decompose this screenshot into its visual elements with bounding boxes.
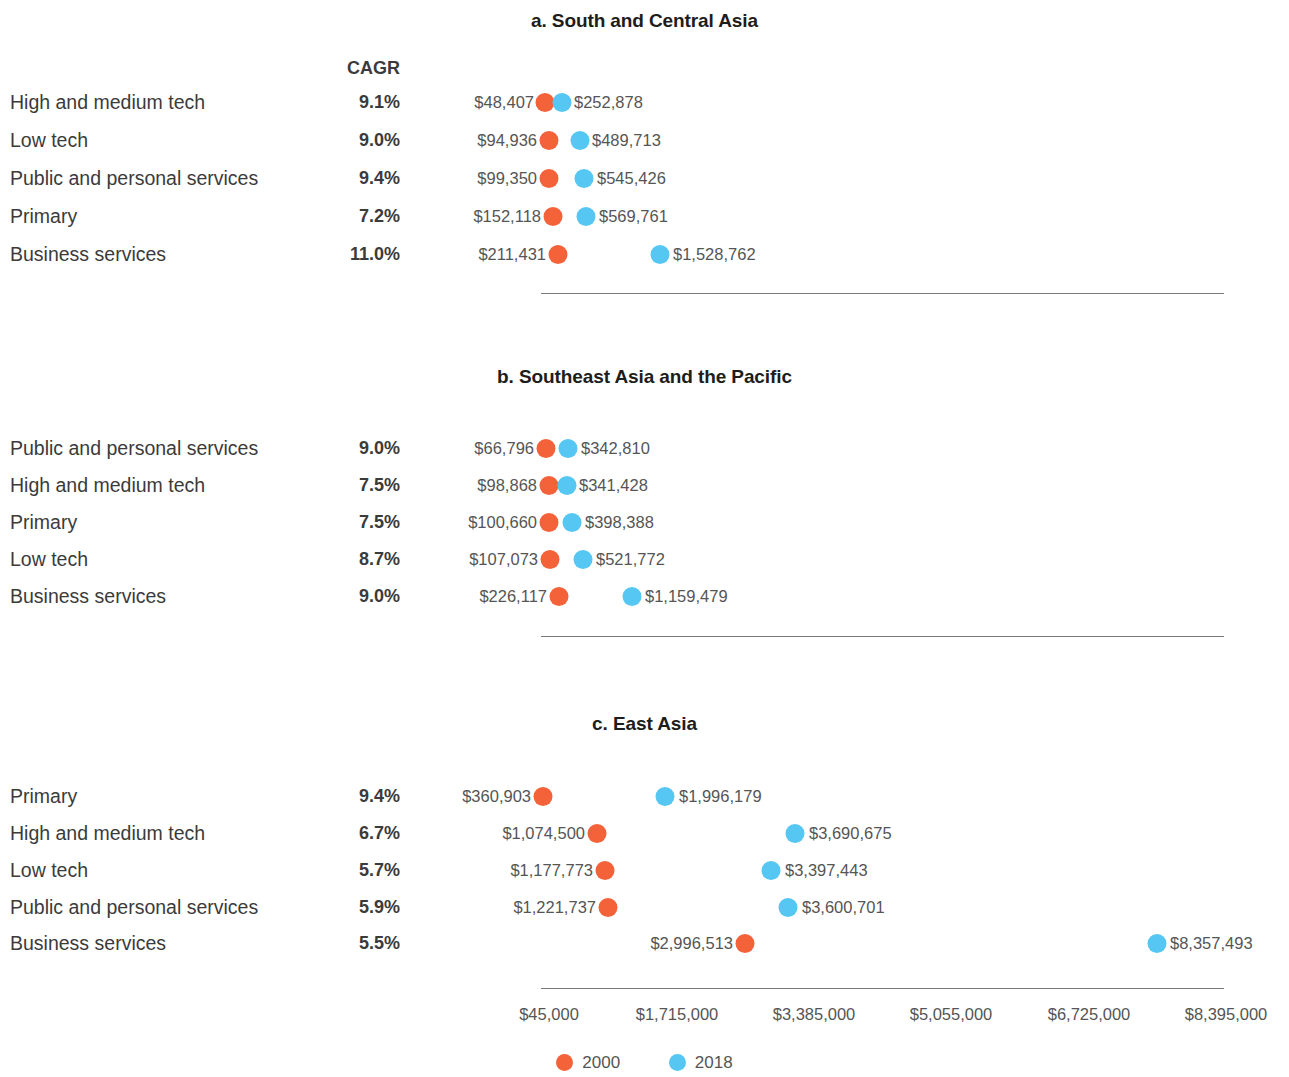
legend-label: 2000 bbox=[582, 1053, 620, 1073]
x-tick-label: $6,725,000 bbox=[1048, 1005, 1131, 1024]
data-point-2018[interactable] bbox=[571, 131, 590, 150]
value-label-2018: $3,397,443 bbox=[785, 857, 868, 883]
table-row: Primary 7.5% $100,660 $398,388 bbox=[0, 509, 1289, 547]
row-plot: $1,074,500 $3,690,675 bbox=[0, 820, 1289, 846]
value-label-2018: $8,357,493 bbox=[1170, 930, 1253, 956]
value-label-2018: $3,600,701 bbox=[802, 894, 885, 920]
legend-label: 2018 bbox=[695, 1053, 733, 1073]
data-point-2018[interactable] bbox=[558, 476, 577, 495]
data-point-2000[interactable] bbox=[537, 439, 556, 458]
value-label-2000: $1,074,500 bbox=[502, 820, 585, 846]
data-point-2000[interactable] bbox=[534, 787, 553, 806]
row-plot: $2,996,513 $8,357,493 bbox=[0, 930, 1289, 956]
value-label-2000: $360,903 bbox=[462, 783, 531, 809]
value-label-2000: $107,073 bbox=[469, 546, 538, 572]
data-point-2018[interactable] bbox=[623, 587, 642, 606]
data-point-2000[interactable] bbox=[540, 513, 559, 532]
table-row: Low tech 9.0% $94,936 $489,713 bbox=[0, 127, 1289, 165]
data-point-2018[interactable] bbox=[553, 93, 572, 112]
table-row: Primary 9.4% $360,903 $1,996,179 bbox=[0, 783, 1289, 821]
row-plot: $211,431 $1,528,762 bbox=[0, 241, 1289, 267]
data-point-2018[interactable] bbox=[779, 898, 798, 917]
data-point-2000[interactable] bbox=[549, 245, 568, 264]
value-label-2018: $1,996,179 bbox=[679, 783, 762, 809]
value-label-2018: $1,528,762 bbox=[673, 241, 756, 267]
table-row: High and medium tech 7.5% $98,868 $341,4… bbox=[0, 472, 1289, 510]
row-plot: $360,903 $1,996,179 bbox=[0, 783, 1289, 809]
data-point-2000[interactable] bbox=[588, 824, 607, 843]
cagr-column-header: CAGR bbox=[280, 58, 400, 79]
data-point-2018[interactable] bbox=[656, 787, 675, 806]
panel-separator-line bbox=[541, 293, 1224, 294]
value-label-2000: $94,936 bbox=[477, 127, 537, 153]
table-row: Business services 11.0% $211,431 $1,528,… bbox=[0, 241, 1289, 279]
row-plot: $152,118 $569,761 bbox=[0, 203, 1289, 229]
x-tick-label: $8,395,000 bbox=[1185, 1005, 1268, 1024]
table-row: Public and personal services 9.0% $66,79… bbox=[0, 435, 1289, 473]
chart-legend: 2000 2018 bbox=[0, 1053, 1289, 1073]
legend-item-2000: 2000 bbox=[556, 1053, 620, 1073]
data-point-2000[interactable] bbox=[599, 898, 618, 917]
value-label-2018: $342,810 bbox=[581, 435, 650, 461]
data-point-2018[interactable] bbox=[563, 513, 582, 532]
x-tick-label: $3,385,000 bbox=[773, 1005, 856, 1024]
row-plot: $1,221,737 $3,600,701 bbox=[0, 894, 1289, 920]
row-plot: $99,350 $545,426 bbox=[0, 165, 1289, 191]
legend-item-2018: 2018 bbox=[669, 1053, 733, 1073]
value-label-2018: $545,426 bbox=[597, 165, 666, 191]
value-label-2000: $1,177,773 bbox=[510, 857, 593, 883]
data-point-2018[interactable] bbox=[762, 861, 781, 880]
panel-title: b. Southeast Asia and the Pacific bbox=[0, 366, 1289, 388]
row-plot: $66,796 $342,810 bbox=[0, 435, 1289, 461]
panel-title: c. East Asia bbox=[0, 713, 1289, 735]
data-point-2000[interactable] bbox=[596, 861, 615, 880]
value-label-2018: $1,159,479 bbox=[645, 583, 728, 609]
row-plot: $1,177,773 $3,397,443 bbox=[0, 857, 1289, 883]
data-point-2000[interactable] bbox=[540, 131, 559, 150]
row-plot: $48,407 $252,878 bbox=[0, 89, 1289, 115]
data-point-2018[interactable] bbox=[1148, 934, 1167, 953]
data-point-2000[interactable] bbox=[541, 550, 560, 569]
data-point-2018[interactable] bbox=[577, 207, 596, 226]
row-plot: $94,936 $489,713 bbox=[0, 127, 1289, 153]
data-point-2000[interactable] bbox=[540, 476, 559, 495]
data-point-2018[interactable] bbox=[559, 439, 578, 458]
value-label-2000: $2,996,513 bbox=[650, 930, 733, 956]
data-point-2018[interactable] bbox=[575, 169, 594, 188]
data-point-2018[interactable] bbox=[786, 824, 805, 843]
data-point-2018[interactable] bbox=[651, 245, 670, 264]
row-plot: $226,117 $1,159,479 bbox=[0, 583, 1289, 609]
chart-page: a. South and Central Asia CAGR High and … bbox=[0, 0, 1289, 1077]
data-point-2000[interactable] bbox=[544, 207, 563, 226]
table-row: Primary 7.2% $152,118 $569,761 bbox=[0, 203, 1289, 241]
x-axis-line bbox=[541, 988, 1224, 989]
value-label-2000: $100,660 bbox=[468, 509, 537, 535]
row-plot: $98,868 $341,428 bbox=[0, 472, 1289, 498]
value-label-2000: $152,118 bbox=[473, 203, 541, 229]
x-tick-label: $5,055,000 bbox=[910, 1005, 993, 1024]
legend-swatch-icon bbox=[669, 1054, 686, 1071]
data-point-2000[interactable] bbox=[540, 169, 559, 188]
value-label-2018: $569,761 bbox=[599, 203, 668, 229]
value-label-2018: $521,772 bbox=[596, 546, 665, 572]
value-label-2018: $3,690,675 bbox=[809, 820, 892, 846]
table-row: Low tech 5.7% $1,177,773 $3,397,443 bbox=[0, 857, 1289, 895]
value-label-2000: $226,117 bbox=[479, 583, 547, 609]
data-point-2018[interactable] bbox=[574, 550, 593, 569]
table-row: Public and personal services 9.4% $99,35… bbox=[0, 165, 1289, 203]
table-row: Business services 5.5% $2,996,513 $8,357… bbox=[0, 930, 1289, 968]
value-label-2018: $398,388 bbox=[585, 509, 654, 535]
row-plot: $100,660 $398,388 bbox=[0, 509, 1289, 535]
panel-title: a. South and Central Asia bbox=[0, 10, 1289, 32]
row-plot: $107,073 $521,772 bbox=[0, 546, 1289, 572]
table-row: Business services 9.0% $226,117 $1,159,4… bbox=[0, 583, 1289, 621]
value-label-2018: $341,428 bbox=[579, 472, 648, 498]
value-label-2018: $489,713 bbox=[592, 127, 661, 153]
value-label-2000: $98,868 bbox=[477, 472, 537, 498]
table-row: Low tech 8.7% $107,073 $521,772 bbox=[0, 546, 1289, 584]
value-label-2000: $66,796 bbox=[474, 435, 534, 461]
data-point-2000[interactable] bbox=[736, 934, 755, 953]
value-label-2000: $1,221,737 bbox=[513, 894, 596, 920]
data-point-2000[interactable] bbox=[550, 587, 569, 606]
legend-swatch-icon bbox=[556, 1054, 573, 1071]
